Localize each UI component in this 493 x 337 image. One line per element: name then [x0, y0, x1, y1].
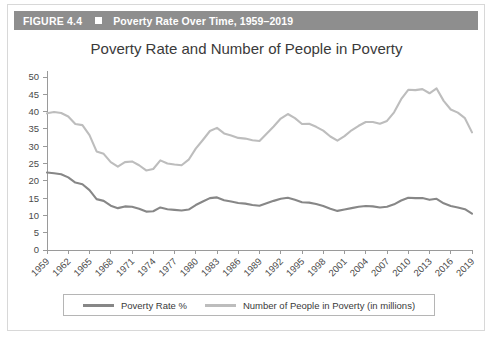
svg-text:1977: 1977 [156, 256, 179, 279]
svg-text:1974: 1974 [135, 256, 158, 279]
svg-text:2010: 2010 [390, 256, 413, 279]
svg-text:1986: 1986 [220, 256, 243, 279]
svg-text:30: 30 [28, 141, 39, 152]
chart-series [47, 88, 472, 213]
svg-text:1983: 1983 [199, 256, 222, 279]
svg-text:5: 5 [34, 227, 39, 238]
svg-text:2019: 2019 [454, 256, 477, 279]
series-line-people-count [47, 88, 472, 170]
legend-label-poverty-rate: Poverty Rate % [121, 300, 187, 311]
legend-item-people-count: Number of People in Poverty (in millions… [205, 300, 415, 311]
legend-swatch-poverty-rate [83, 304, 114, 307]
svg-text:1992: 1992 [262, 256, 285, 279]
svg-text:1989: 1989 [241, 256, 264, 279]
svg-text:2016: 2016 [432, 256, 455, 279]
svg-text:1968: 1968 [92, 256, 115, 279]
svg-text:15: 15 [28, 193, 39, 204]
svg-text:0: 0 [34, 244, 39, 255]
series-line-poverty-rate [47, 172, 472, 213]
legend-item-poverty-rate: Poverty Rate % [83, 300, 187, 311]
chart-axes: 0510152025303540455019591962196519681971… [28, 71, 476, 278]
svg-text:1980: 1980 [177, 256, 200, 279]
svg-text:2004: 2004 [347, 256, 370, 279]
svg-text:45: 45 [28, 89, 39, 100]
svg-text:1971: 1971 [114, 256, 137, 279]
svg-text:40: 40 [28, 106, 39, 117]
svg-text:20: 20 [28, 175, 39, 186]
svg-text:1995: 1995 [284, 256, 307, 279]
svg-text:1998: 1998 [305, 256, 328, 279]
legend-swatch-people-count [205, 304, 236, 307]
svg-text:2001: 2001 [326, 256, 349, 279]
svg-text:35: 35 [28, 123, 39, 134]
chart-legend: Poverty Rate % Number of People in Pover… [63, 294, 435, 316]
svg-text:1959: 1959 [29, 256, 52, 279]
svg-text:10: 10 [28, 210, 39, 221]
svg-text:25: 25 [28, 158, 39, 169]
svg-text:1962: 1962 [50, 256, 73, 279]
chart-plot: 0510152025303540455019591962196519681971… [0, 0, 493, 337]
svg-text:2007: 2007 [369, 256, 392, 279]
svg-text:2013: 2013 [411, 256, 434, 279]
legend-label-people-count: Number of People in Poverty (in millions… [243, 300, 415, 311]
svg-text:50: 50 [28, 71, 39, 82]
svg-text:1965: 1965 [71, 256, 94, 279]
figure-container: FIGURE 4.4 Poverty Rate Over Time, 1959–… [0, 0, 493, 337]
